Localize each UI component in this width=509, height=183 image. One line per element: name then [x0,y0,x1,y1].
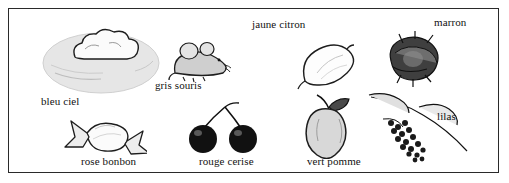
cloud-illustration [39,23,169,97]
label-lilas: lilas [437,110,456,122]
label-gris-souris: gris souris [155,79,202,91]
illustration-frame: bleu ciel gris souris jaune citron [8,8,499,173]
label-vert-pomme: vert pomme [307,155,361,167]
label-rose-bonbon: rose bonbon [81,155,136,167]
label-jaune-citron: jaune citron [252,18,305,30]
figure-page: bleu ciel gris souris jaune citron [0,0,509,183]
candy-illustration [61,109,147,157]
apple-illustration [295,93,369,159]
label-rouge-cerise: rouge cerise [199,155,254,167]
lemon-illustration [297,35,361,91]
mouse-illustration [167,35,243,83]
label-bleu-ciel: bleu ciel [41,95,79,107]
lilac-branch-illustration [361,89,476,163]
label-marron: marron [434,16,466,28]
cherries-illustration [185,101,265,159]
chestnut-illustration [381,31,447,87]
